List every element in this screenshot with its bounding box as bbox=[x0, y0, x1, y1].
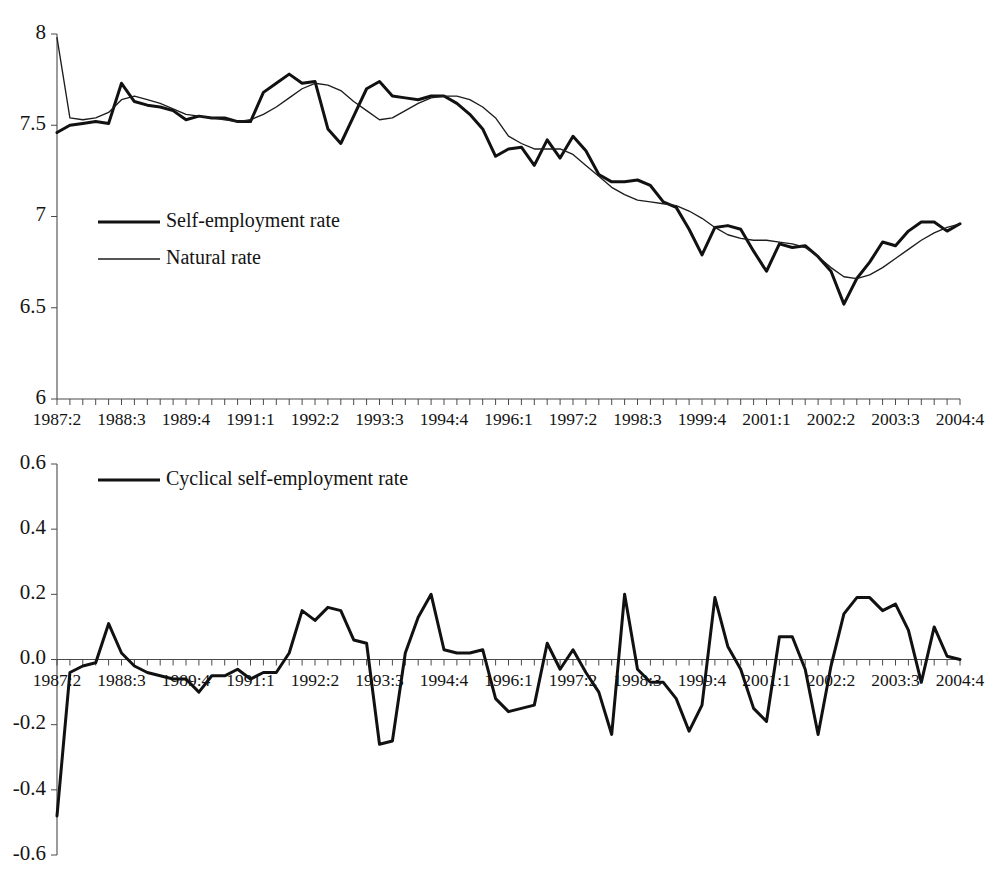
x-axis-label: 2001:1 bbox=[742, 670, 791, 690]
x-axis-label: 1998:3 bbox=[613, 670, 662, 690]
x-axis-label: 2002:2 bbox=[807, 409, 856, 429]
x-axis-label: 1999:4 bbox=[678, 409, 727, 429]
x-axis-label: 1992:2 bbox=[291, 409, 340, 429]
y-axis-label: 0.6 bbox=[20, 450, 46, 474]
x-axis-label: 1994:4 bbox=[420, 670, 469, 690]
x-axis-label: 1998:3 bbox=[613, 409, 662, 429]
x-axis-label: 2004:4 bbox=[936, 670, 985, 690]
x-axis-label: 1993:3 bbox=[355, 670, 404, 690]
x-axis-label: 1988:3 bbox=[97, 409, 146, 429]
series-line-1 bbox=[57, 594, 960, 816]
bottom-chart-svg: 0.60.40.20.0-0.2-0.4-0.61987:21988:31989… bbox=[0, 440, 998, 879]
legend-label-2: Natural rate bbox=[166, 246, 261, 268]
y-axis-label: 8 bbox=[36, 20, 47, 44]
y-axis-label: -0.6 bbox=[13, 841, 46, 865]
chart-panel-top: 66.577.581987:21988:31989:41991:11992:21… bbox=[0, 0, 998, 440]
legend-label-1: Self-employment rate bbox=[166, 209, 340, 232]
y-axis-label: -0.2 bbox=[13, 710, 46, 734]
x-axis-label: 1999:4 bbox=[678, 670, 727, 690]
x-axis-label: 1989:4 bbox=[162, 409, 211, 429]
x-axis-label: 2001:1 bbox=[742, 409, 791, 429]
y-axis-label: 6.5 bbox=[20, 294, 46, 318]
y-axis-label: 7.5 bbox=[20, 111, 46, 135]
x-axis-label: 1992:2 bbox=[291, 670, 340, 690]
y-axis-label: -0.4 bbox=[13, 776, 47, 800]
x-axis-label: 1997:2 bbox=[549, 409, 598, 429]
figure-root: 66.577.581987:21988:31989:41991:11992:21… bbox=[0, 0, 998, 879]
y-axis-label: 0.4 bbox=[20, 515, 47, 539]
series-line-2 bbox=[57, 38, 960, 279]
y-axis-label: 6 bbox=[36, 385, 47, 409]
x-axis-label: 1994:4 bbox=[420, 409, 469, 429]
x-axis-label: 2004:4 bbox=[936, 409, 985, 429]
y-axis-label: 0.0 bbox=[20, 645, 46, 669]
x-axis-label: 1996:1 bbox=[484, 409, 533, 429]
y-axis-label: 0.2 bbox=[20, 580, 46, 604]
series-line-1 bbox=[57, 74, 960, 304]
x-axis-label: 1991:1 bbox=[226, 409, 275, 429]
legend-label-1: Cyclical self-employment rate bbox=[166, 467, 408, 490]
chart-panel-bottom: 0.60.40.20.0-0.2-0.4-0.61987:21988:31989… bbox=[0, 440, 998, 879]
x-axis-label: 2003:3 bbox=[871, 409, 920, 429]
x-axis-label: 1987:2 bbox=[33, 409, 82, 429]
x-axis-label: 1993:3 bbox=[355, 409, 404, 429]
top-chart-svg: 66.577.581987:21988:31989:41991:11992:21… bbox=[0, 0, 998, 440]
x-axis-label: 1987:2 bbox=[33, 670, 82, 690]
x-axis-label: 1988:3 bbox=[97, 670, 146, 690]
y-axis-label: 7 bbox=[36, 202, 47, 226]
x-axis-label: 2003:3 bbox=[871, 670, 920, 690]
